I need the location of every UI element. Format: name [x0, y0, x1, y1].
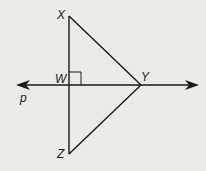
label-y: Y — [141, 70, 150, 84]
segment-yz — [69, 85, 141, 154]
label-z: Z — [56, 147, 65, 161]
geometry-diagram: X W Y Z p — [0, 0, 206, 171]
segment-xy — [69, 16, 141, 85]
diagram-canvas: X W Y Z p — [0, 0, 206, 171]
label-p: p — [19, 91, 27, 105]
label-w: W — [55, 72, 68, 86]
right-angle-mark-icon — [69, 72, 81, 85]
label-x: X — [56, 8, 66, 22]
